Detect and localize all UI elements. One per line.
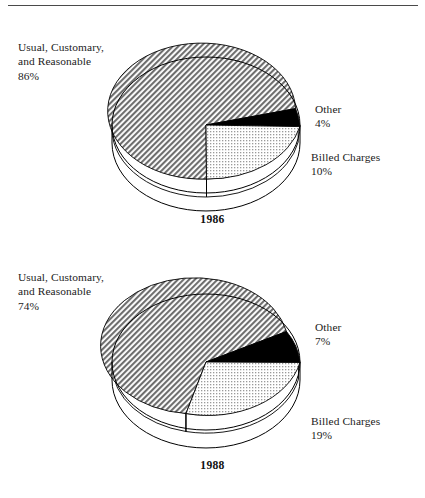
label-ucr-1986-line2: and Reasonable: [18, 54, 104, 68]
slice-billed-1988[interactable]: [186, 362, 300, 415]
label-billed-1986-name: Billed Charges: [311, 150, 380, 164]
label-billed-1986: Billed Charges 10%: [311, 150, 380, 179]
label-ucr-1988-line2: and Reasonable: [18, 284, 104, 298]
label-ucr-1986-line1: Usual, Customary,: [18, 40, 104, 54]
label-ucr-1986-value: 86%: [18, 69, 104, 83]
pie-chart-1988: Usual, Customary, and Reasonable 74% Oth…: [0, 258, 425, 488]
label-other-1986-name: Other: [315, 102, 341, 116]
label-other-1988-name: Other: [315, 320, 341, 334]
label-billed-1986-value: 10%: [311, 164, 380, 178]
label-billed-1988-name: Billed Charges: [311, 414, 380, 428]
label-ucr-1988-value: 74%: [18, 299, 104, 313]
label-billed-1988: Billed Charges 19%: [311, 414, 380, 443]
label-other-1986-value: 4%: [315, 116, 341, 130]
top-horizontal-rule: [8, 5, 418, 6]
label-ucr-1988-line1: Usual, Customary,: [18, 270, 104, 284]
label-other-1988: Other 7%: [315, 320, 341, 349]
year-label-1988: 1988: [0, 459, 425, 472]
year-label-1986: 1986: [0, 213, 425, 226]
chart-page: Usual, Customary, and Reasonable 86% Oth…: [0, 0, 425, 498]
label-other-1986: Other 4%: [315, 102, 341, 131]
pie-chart-1986: Usual, Customary, and Reasonable 86% Oth…: [0, 14, 425, 242]
label-ucr-1988: Usual, Customary, and Reasonable 74%: [18, 270, 104, 313]
label-ucr-1986: Usual, Customary, and Reasonable 86%: [18, 40, 104, 83]
label-billed-1988-value: 19%: [311, 428, 380, 442]
label-other-1988-value: 7%: [315, 334, 341, 348]
